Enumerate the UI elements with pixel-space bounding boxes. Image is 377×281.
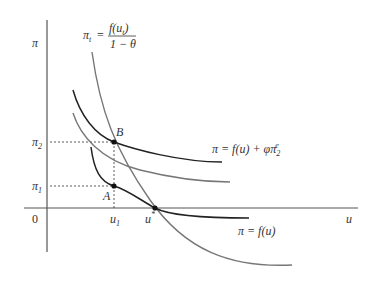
pi-t-formula: πt = f(ut) 1 − θ	[83, 21, 136, 51]
point-a-label: A	[102, 189, 111, 203]
u-star-label: u*	[145, 210, 155, 226]
svg-text:f(ut): f(ut)	[109, 21, 129, 37]
upper-curve-label: π = f(u) + φπ2e	[212, 141, 280, 158]
wage-profit-diagram: π u 0 π2 π1 u1 u* B A πt = f(ut) 1 − θ π…	[0, 0, 377, 281]
u1-label: u1	[110, 212, 120, 228]
point-a	[111, 183, 116, 188]
lower-curve-label: π = f(u)	[238, 224, 275, 238]
pi1-label: π1	[32, 179, 42, 195]
origin-label: 0	[32, 212, 38, 226]
diagram-canvas: π u 0 π2 π1 u1 u* B A πt = f(ut) 1 − θ π…	[0, 0, 377, 281]
y-axis-label: π	[32, 36, 39, 50]
x-axis-label: u	[346, 212, 352, 226]
svg-text:=: =	[97, 28, 104, 42]
point-b-label: B	[116, 125, 124, 139]
svg-text:1 − θ: 1 − θ	[110, 37, 136, 51]
svg-text:πt: πt	[83, 28, 92, 44]
pi2-label: π2	[32, 135, 42, 151]
point-b	[111, 139, 116, 144]
upper-curve	[73, 90, 222, 162]
